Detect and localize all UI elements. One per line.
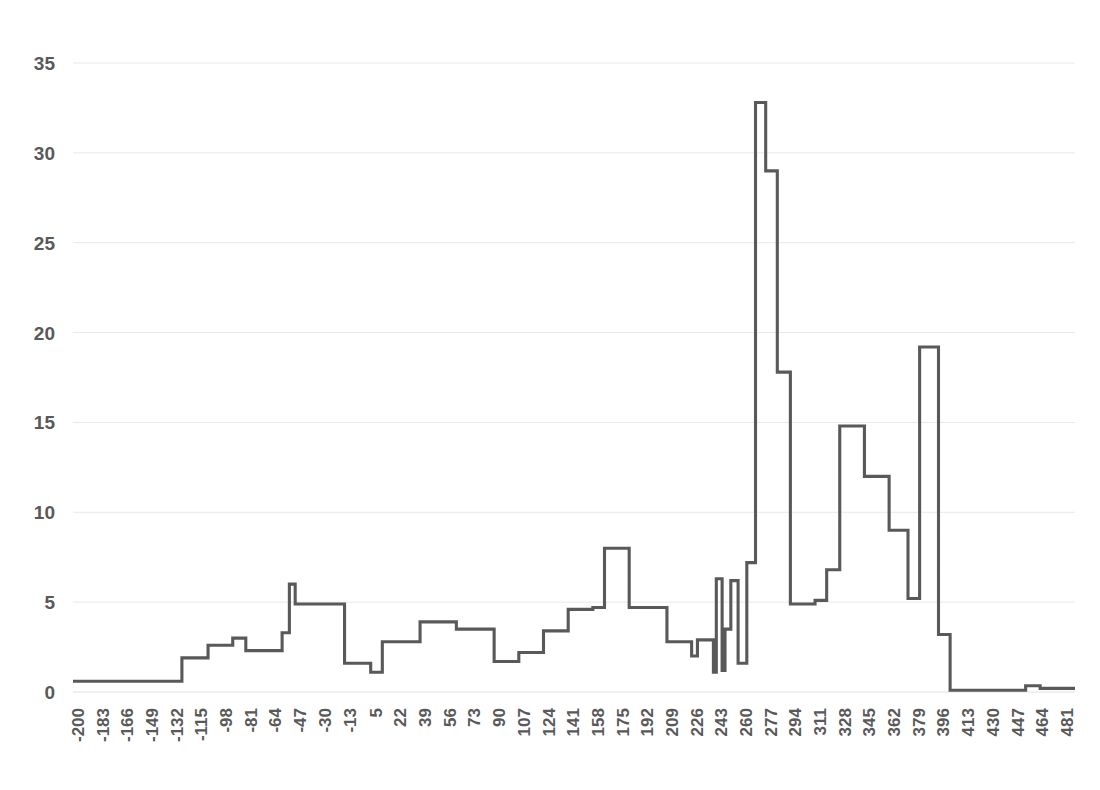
chart-container: 05101520253035 -200-183-166-149-132-115-… xyxy=(0,0,1100,790)
x-tick-label: -30 xyxy=(316,708,335,733)
x-tick-label: -98 xyxy=(217,708,236,733)
x-tick-label: 430 xyxy=(984,708,1003,736)
x-tick-label: 294 xyxy=(786,707,805,736)
y-tick-label: 5 xyxy=(44,592,55,613)
x-tick-label: -166 xyxy=(118,708,137,742)
y-tick-label: 20 xyxy=(34,323,55,344)
x-axis-tick-labels: -200-183-166-149-132-115-98-81-64-47-30-… xyxy=(69,707,1077,742)
x-tick-label: 481 xyxy=(1058,708,1077,736)
y-tick-label: 30 xyxy=(34,143,55,164)
y-tick-label: 25 xyxy=(34,233,56,254)
y-axis-tick-labels: 05101520253035 xyxy=(34,53,56,703)
x-tick-label: 413 xyxy=(959,708,978,736)
x-tick-label: 90 xyxy=(490,708,509,727)
x-tick-label: 243 xyxy=(712,708,731,736)
x-tick-label: 56 xyxy=(441,708,460,727)
x-tick-label: -132 xyxy=(168,708,187,742)
x-tick-label: 141 xyxy=(564,708,583,736)
x-tick-label: 328 xyxy=(836,708,855,736)
x-tick-label: -200 xyxy=(69,708,88,742)
x-tick-label: -64 xyxy=(266,707,285,732)
x-tick-label: 447 xyxy=(1009,708,1028,736)
x-tick-label: -183 xyxy=(94,708,113,742)
x-tick-label: 345 xyxy=(860,708,879,736)
x-tick-label: -47 xyxy=(291,708,310,733)
y-tick-label: 0 xyxy=(44,682,55,703)
x-tick-label: -115 xyxy=(192,708,211,741)
x-tick-label: 22 xyxy=(391,708,410,727)
x-tick-label: 260 xyxy=(737,708,756,736)
x-tick-label: 464 xyxy=(1033,707,1052,736)
x-tick-label: -149 xyxy=(143,708,162,742)
x-tick-label: 39 xyxy=(416,708,435,727)
gridlines-group xyxy=(73,63,1075,692)
x-tick-label: 362 xyxy=(885,708,904,736)
y-tick-label: 15 xyxy=(34,412,56,433)
step-line-chart: 05101520253035 -200-183-166-149-132-115-… xyxy=(0,0,1100,790)
x-tick-label: 311 xyxy=(811,708,830,735)
x-tick-label: 175 xyxy=(614,708,633,736)
x-tick-label: 158 xyxy=(589,708,608,736)
y-tick-label: 10 xyxy=(34,502,55,523)
x-tick-label: 192 xyxy=(638,708,657,736)
x-tick-label: 226 xyxy=(688,708,707,736)
x-tick-label: 5 xyxy=(367,708,386,717)
x-tick-label: 379 xyxy=(910,708,929,736)
x-tick-label: 209 xyxy=(663,708,682,736)
x-tick-label: 107 xyxy=(515,708,534,736)
x-tick-label: 396 xyxy=(934,708,953,736)
y-tick-label: 35 xyxy=(34,53,56,74)
x-tick-label: 124 xyxy=(540,707,559,736)
x-tick-label: -13 xyxy=(341,708,360,733)
x-tick-label: -81 xyxy=(242,708,261,733)
x-tick-label: 277 xyxy=(762,708,781,736)
x-tick-label: 73 xyxy=(465,708,484,727)
